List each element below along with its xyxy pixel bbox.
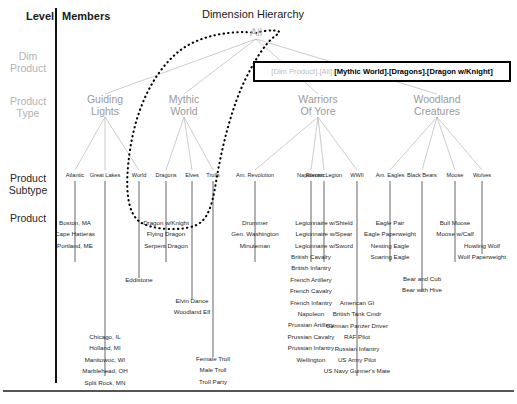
node-label-line2: Lights bbox=[87, 105, 123, 117]
node-warriors-of-yore[interactable]: WarriorsOf Yore bbox=[298, 93, 337, 117]
column-divider bbox=[55, 8, 57, 383]
node-product[interactable]: Howling Wolf bbox=[458, 240, 506, 251]
callout-prefix: [Dim Product].[All]. bbox=[271, 67, 334, 76]
node-product[interactable]: RAF Pilot bbox=[324, 331, 391, 342]
node-product[interactable]: Legionnaire w/Sword bbox=[295, 240, 353, 251]
level-label-product-type: ProductType bbox=[3, 95, 53, 119]
product-list-elves: Elvin DanceWoodland Elf bbox=[174, 295, 211, 318]
node-product[interactable]: Bear with Hive bbox=[402, 284, 442, 295]
node-subtype-wwii[interactable]: WWII bbox=[350, 172, 364, 178]
node-product[interactable]: Serpent Dragon bbox=[143, 240, 189, 251]
node-product[interactable]: Holland, MI bbox=[82, 342, 127, 353]
node-subtype-black-bears[interactable]: Black Bears bbox=[407, 172, 437, 178]
node-label-line1: Mythic bbox=[169, 93, 199, 105]
node-label-line2: Creatures bbox=[413, 105, 460, 117]
node-product[interactable]: German Panzer Driver bbox=[324, 320, 391, 331]
node-product[interactable]: Flying Dragon bbox=[143, 228, 189, 239]
node-subtype-am-revolution[interactable]: Am. Revolution bbox=[236, 172, 274, 178]
level-label-line1: Product bbox=[3, 95, 53, 107]
page-title: Dimension Hierarchy bbox=[202, 8, 304, 20]
node-product[interactable]: Bear and Cub bbox=[402, 273, 442, 284]
node-product[interactable]: Drummer bbox=[231, 217, 279, 228]
level-label-line1: Dim bbox=[3, 50, 53, 62]
node-product[interactable]: Moose w/Calf bbox=[436, 228, 473, 239]
node-subtype-dragons[interactable]: Dragons bbox=[155, 172, 176, 178]
node-subtype-wolves[interactable]: Wolves bbox=[473, 172, 491, 178]
node-product[interactable]: Split Rock, MN bbox=[82, 377, 127, 388]
node-label-line1: Woodland bbox=[413, 93, 460, 105]
product-list-dragons: Dragon w/KnightFlying DragonSerpent Drag… bbox=[143, 217, 189, 251]
product-list-am-eagles: Eagle PairEagle PaperweightNesting Eagle… bbox=[364, 217, 416, 263]
node-product[interactable]: Eddistone bbox=[125, 274, 153, 285]
level-label-line1: Product bbox=[3, 172, 53, 184]
product-list-trolls: Female TrollMale TrollTroll Party bbox=[196, 353, 230, 387]
product-list-black-bears: Bear and CubBear with Hive bbox=[402, 273, 442, 296]
node-product[interactable]: Legionnaire w/Shield bbox=[295, 217, 353, 228]
node-all[interactable]: All bbox=[250, 26, 262, 38]
node-product[interactable]: Boston, MA bbox=[55, 217, 95, 228]
node-product[interactable]: Minuteman bbox=[231, 240, 279, 251]
node-product[interactable]: Dragon w/Knight bbox=[143, 217, 189, 228]
node-product[interactable]: British Infantry bbox=[288, 262, 335, 273]
node-product[interactable]: Wolf Paperweight bbox=[458, 251, 506, 262]
product-list-am-revolution: DrummerGen. WashingtonMinuteman bbox=[231, 217, 279, 251]
node-product[interactable]: Eagle Pair bbox=[364, 217, 416, 228]
level-label-product: Product bbox=[3, 212, 53, 224]
node-subtype-atlantic[interactable]: Atlantic bbox=[66, 172, 84, 178]
node-product[interactable]: US Navy Gunner's Mate bbox=[324, 365, 391, 376]
product-list-wolves: Howling WolfWolf Paperweight bbox=[458, 240, 506, 263]
node-product[interactable]: US Army Pilot bbox=[324, 354, 391, 365]
node-product[interactable]: Cape Hatteras bbox=[55, 228, 95, 239]
node-product[interactable]: Nesting Eagle bbox=[364, 240, 416, 251]
level-label-dim-product: DimProduct bbox=[3, 50, 53, 74]
node-product[interactable]: Male Troll bbox=[196, 364, 230, 375]
node-product[interactable]: Troll Party bbox=[196, 376, 230, 387]
node-product[interactable]: Manitowoc, WI bbox=[82, 354, 127, 365]
node-subtype-trolls[interactable]: Trolls bbox=[206, 172, 219, 178]
node-product[interactable]: French Artillery bbox=[288, 274, 335, 285]
product-list-roman-legion: Legionnaire w/ShieldLegionnaire w/SpearL… bbox=[295, 217, 353, 251]
node-product[interactable]: American GI bbox=[324, 297, 391, 308]
level-label-line2: Subtype bbox=[3, 184, 53, 196]
node-product[interactable]: Female Troll bbox=[196, 353, 230, 364]
bottom-rule bbox=[3, 390, 514, 392]
level-label-product-subtype: ProductSubtype bbox=[3, 172, 53, 196]
member-path-callout: [Dim Product].[All].[Mythic World].[Drag… bbox=[253, 61, 511, 82]
node-subtype-am-eagles[interactable]: Am. Eagles bbox=[376, 172, 405, 178]
node-label-line1: Guiding bbox=[87, 93, 123, 105]
node-product[interactable]: British Tank Cmdr bbox=[324, 308, 391, 319]
node-product[interactable]: Gen. Washington bbox=[231, 228, 279, 239]
node-subtype-great-lakes[interactable]: Great Lakes bbox=[90, 172, 120, 178]
dimension-hierarchy-diagram: Level Members Dimension Hierarchy DimPro… bbox=[0, 0, 517, 404]
product-list-moose: Bull MooseMoose w/Calf bbox=[436, 217, 473, 240]
node-subtype-elves[interactable]: Elves bbox=[185, 172, 199, 178]
node-label-line1: Warriors bbox=[298, 93, 337, 105]
node-product[interactable]: Chicago, IL bbox=[82, 331, 127, 342]
node-product[interactable]: Legionnaire w/Spear bbox=[295, 228, 353, 239]
node-product[interactable]: British Cavalry bbox=[288, 251, 335, 262]
node-subtype-moose[interactable]: Moose bbox=[447, 172, 464, 178]
product-list-wwii: American GIBritish Tank CmdrGerman Panze… bbox=[324, 297, 391, 377]
node-subtype-roman-legion[interactable]: Roman Legion bbox=[306, 172, 342, 178]
level-label-line2: Type bbox=[3, 107, 53, 119]
node-guiding-lights[interactable]: GuidingLights bbox=[87, 93, 123, 117]
node-mythic-world[interactable]: MythicWorld bbox=[169, 93, 199, 117]
node-product[interactable]: Soaring Eagle bbox=[364, 251, 416, 262]
node-woodland-creatures[interactable]: WoodlandCreatures bbox=[413, 93, 460, 117]
node-product[interactable]: Elvin Dance bbox=[174, 295, 211, 306]
node-product[interactable]: Marblehead, OH bbox=[82, 365, 127, 376]
product-list-world: Eddistone bbox=[125, 274, 153, 285]
node-subtype-world[interactable]: World bbox=[132, 172, 147, 178]
node-label-line2: World bbox=[169, 105, 199, 117]
node-product[interactable]: Bull Moose bbox=[436, 217, 473, 228]
callout-highlight: [Mythic World].[Dragons].[Dragon w/Knigh… bbox=[334, 67, 492, 76]
level-label-line1: Product bbox=[3, 212, 53, 224]
product-list-great-lakes: Chicago, ILHolland, MIManitowoc, WIMarbl… bbox=[82, 331, 127, 388]
node-product[interactable]: Portland, ME bbox=[55, 240, 95, 251]
node-product[interactable]: French Cavalry bbox=[288, 285, 335, 296]
node-product[interactable]: Russian Infantry bbox=[324, 343, 391, 354]
node-label-line2: Of Yore bbox=[298, 105, 337, 117]
node-product[interactable]: Eagle Paperweight bbox=[364, 228, 416, 239]
level-column-header: Level bbox=[26, 10, 54, 22]
node-product[interactable]: Woodland Elf bbox=[174, 306, 211, 317]
